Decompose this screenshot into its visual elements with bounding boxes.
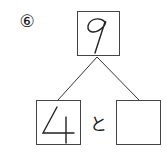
digit-4-handwritten: [37, 101, 80, 144]
part-right-answer-box[interactable]: [116, 100, 161, 145]
part-left-box: [36, 100, 81, 145]
digit-9-handwritten: [78, 12, 119, 55]
line-left: [58, 57, 97, 100]
line-right: [97, 57, 139, 100]
whole-number-box: [77, 11, 120, 56]
connector-to: と: [90, 114, 107, 134]
